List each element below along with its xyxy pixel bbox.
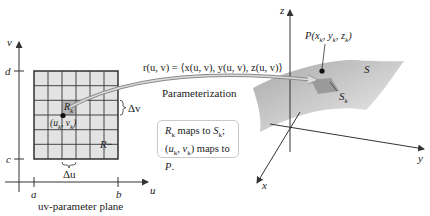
- uv-plane-caption: uv-parameter plane: [38, 201, 123, 212]
- surface-s-label: S: [364, 64, 370, 75]
- patch-sk-label: Sk: [339, 91, 348, 105]
- parameterization-formula: r(u, v) = ⟨x(u, v), y(u, v), z(u, v)⟩: [143, 63, 283, 74]
- z-axis-label: z: [280, 5, 284, 16]
- point-p-label: P(xk, yk, zk): [305, 31, 352, 44]
- region-grid: [34, 71, 126, 168]
- tick-b-label: b: [116, 189, 122, 200]
- note-line-2: (uk, vk) maps to P.: [165, 142, 238, 174]
- delta-u-label: Δu: [63, 169, 76, 180]
- tick-c-label: c: [6, 154, 11, 165]
- tick-d-label: d: [5, 66, 11, 77]
- surface-s: [253, 44, 404, 132]
- tick-a-label: a: [31, 189, 37, 200]
- point-uk-vk-label: (uk, vk): [50, 119, 76, 131]
- v-axis-label: v: [7, 37, 12, 48]
- parameterization-caption: Parameterization: [162, 88, 237, 99]
- delta-v-label: Δv: [128, 103, 141, 114]
- cell-rk-label: Rk: [64, 102, 73, 115]
- point-p: [319, 68, 324, 73]
- u-axis-label: u: [150, 185, 156, 196]
- mapping-note: Rk maps to Sk; (uk, vk) maps to P.: [157, 120, 239, 158]
- note-line-1: Rk maps to Sk;: [165, 124, 238, 142]
- x-axis-label: x: [262, 180, 267, 191]
- y-axis-label: y: [418, 153, 423, 164]
- region-r-label: R: [100, 139, 107, 150]
